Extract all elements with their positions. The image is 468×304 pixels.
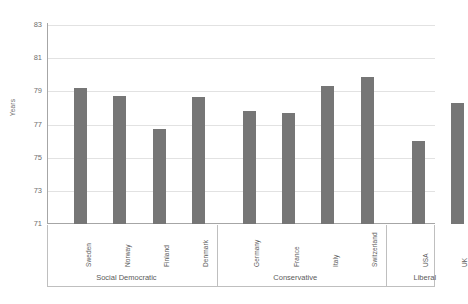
y-axis-tick-label: 77: [22, 121, 42, 129]
group-label-conservative: Conservative: [217, 273, 374, 282]
bar-germany[interactable]: [243, 111, 256, 224]
bar-denmark[interactable]: [192, 97, 205, 224]
group-label-liberal: Liberal: [386, 273, 464, 282]
gridline: [47, 191, 435, 192]
category-label-box: SwedenNorwayFinlandDenmarkGermanyFranceI…: [47, 225, 435, 287]
group-separator: [217, 225, 218, 286]
y-axis-title: Years: [9, 84, 16, 132]
y-axis-tick-label: 79: [22, 87, 42, 95]
bar-usa[interactable]: [412, 141, 425, 224]
bar-norway[interactable]: [113, 96, 126, 224]
bar-sweden[interactable]: [74, 88, 87, 224]
bar-uk[interactable]: [451, 103, 464, 224]
bar-france[interactable]: [282, 113, 295, 224]
group-label-social-democratic: Social Democratic: [48, 273, 205, 282]
y-axis-tick-label: 75: [22, 154, 42, 162]
category-label-finland: Finland: [163, 245, 170, 267]
y-axis-tick-label: 73: [22, 187, 42, 195]
gridline: [47, 58, 435, 59]
group-separator: [386, 225, 387, 286]
gridline: [47, 25, 435, 26]
bar-italy[interactable]: [321, 86, 334, 224]
category-label-uk: UK: [461, 258, 468, 267]
plot-area: [47, 25, 435, 224]
bar-switzerland[interactable]: [361, 77, 374, 224]
gridline: [47, 158, 435, 159]
category-label-usa: USA: [422, 253, 429, 267]
category-label-switzerland: Switzerland: [371, 232, 378, 267]
y-axis-tick-label: 83: [22, 21, 42, 29]
y-axis-tick-label: 81: [22, 54, 42, 62]
y-axis-tick-label: 71: [22, 220, 42, 228]
category-label-norway: Norway: [124, 244, 131, 267]
y-axis-line: [47, 23, 48, 224]
gridline: [47, 125, 435, 126]
category-label-france: France: [293, 246, 300, 267]
x-axis-line: [47, 223, 435, 224]
bar-finland[interactable]: [153, 129, 166, 224]
gridline: [47, 91, 435, 92]
category-label-italy: Italy: [332, 255, 339, 267]
category-label-sweden: Sweden: [85, 243, 92, 267]
category-label-denmark: Denmark: [202, 240, 209, 267]
category-label-germany: Germany: [253, 240, 260, 267]
